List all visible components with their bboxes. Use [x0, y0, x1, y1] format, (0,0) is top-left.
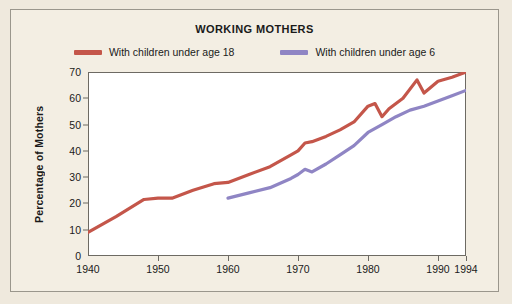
- series-line-under-18: [88, 72, 466, 232]
- legend-label-under-18: With children under age 18: [109, 46, 235, 58]
- x-tick-mark-1970: [298, 256, 299, 261]
- y-axis-label: Percentage of Mothers: [33, 72, 45, 256]
- x-tick-mark-1990: [438, 256, 439, 261]
- x-tick-label-1990: 1990: [426, 263, 449, 275]
- plot-area: 010203040506070 194019501960197019801990…: [88, 72, 466, 256]
- y-tick-label-70: 70: [69, 66, 81, 78]
- legend-label-under-6: With children under age 6: [315, 46, 435, 58]
- x-tick-mark-1994: [466, 256, 467, 261]
- legend-item-under-6: With children under age 6: [280, 46, 435, 58]
- y-tick-label-0: 0: [75, 250, 81, 262]
- legend-swatch-red: [74, 50, 102, 55]
- x-tick-label-1970: 1970: [286, 263, 309, 275]
- chart-figure: WORKING MOTHERS With children under age …: [10, 9, 499, 292]
- y-tick-label-50: 50: [69, 119, 81, 131]
- y-tick-label-40: 40: [69, 145, 81, 157]
- chart-title: WORKING MOTHERS: [11, 23, 498, 35]
- y-tick-label-60: 60: [69, 92, 81, 104]
- legend-item-under-18: With children under age 18: [74, 46, 235, 58]
- x-tick-mark-1980: [368, 256, 369, 261]
- x-tick-label-1960: 1960: [216, 263, 239, 275]
- y-tick-label-30: 30: [69, 171, 81, 183]
- x-tick-label-1940: 1940: [76, 263, 99, 275]
- x-tick-mark-1950: [158, 256, 159, 261]
- x-tick-label-1980: 1980: [356, 263, 379, 275]
- legend-swatch-purple: [280, 50, 308, 55]
- x-tick-label-1950: 1950: [146, 263, 169, 275]
- chart-legend: With children under age 18 With children…: [11, 46, 498, 58]
- series-line-under-6: [228, 90, 466, 198]
- chart-lines: [88, 72, 466, 256]
- y-tick-label-10: 10: [69, 224, 81, 236]
- x-tick-label-1994: 1994: [454, 263, 477, 275]
- x-tick-mark-1960: [228, 256, 229, 261]
- y-tick-label-20: 20: [69, 197, 81, 209]
